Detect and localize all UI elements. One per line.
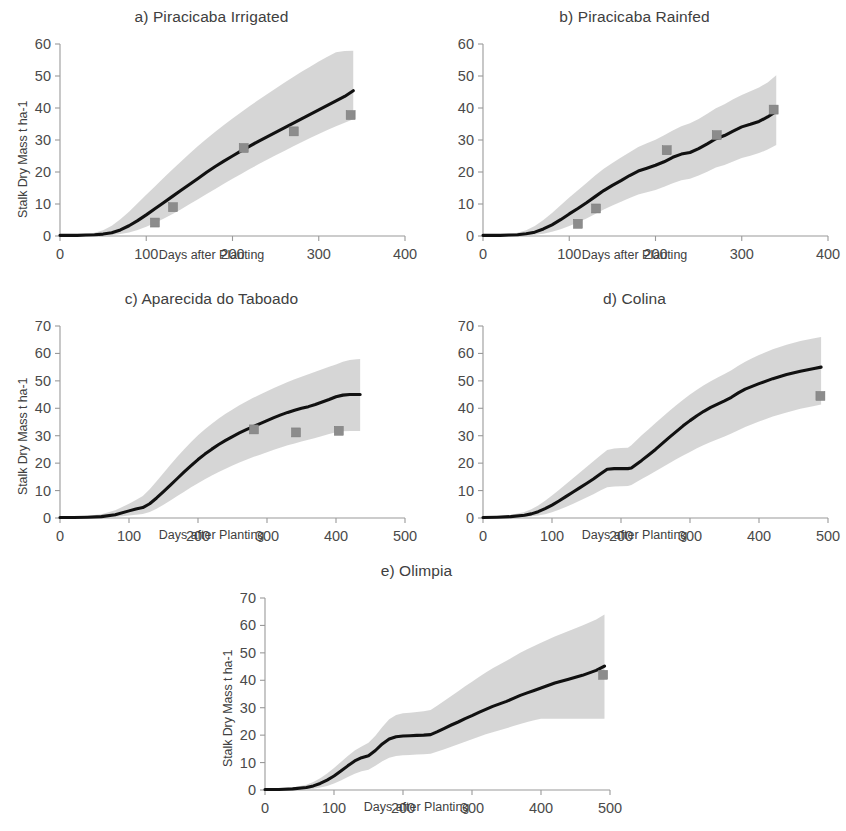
observation-marker [573, 219, 582, 228]
panel-b-title: b) Piracicaba Rainfed [423, 8, 846, 26]
observation-marker [168, 203, 177, 212]
svg-text:30: 30 [458, 132, 474, 148]
svg-text:50: 50 [240, 645, 256, 661]
svg-text:20: 20 [35, 455, 51, 471]
observation-marker [599, 670, 608, 679]
svg-text:40: 40 [35, 100, 51, 116]
observation-marker [712, 131, 721, 140]
panel-e-plot: 0102030405060700100200300400500 [205, 584, 628, 831]
observation-marker [346, 111, 355, 120]
svg-text:40: 40 [240, 672, 256, 688]
panel-a-plot: 01020304050600100200300400 [0, 30, 423, 278]
panel-a: a) Piracicaba Irrigated Stalk Dry Mass t… [0, 8, 423, 283]
panel-e-title: e) Olimpia [205, 562, 628, 580]
panel-c-title: c) Aparecida do Taboado [0, 290, 423, 308]
svg-text:0: 0 [466, 228, 474, 244]
observation-marker [662, 146, 671, 155]
panel-a-x-axis-label: Days after Planting [0, 248, 423, 262]
svg-text:30: 30 [240, 700, 256, 716]
svg-text:50: 50 [458, 68, 474, 84]
svg-text:60: 60 [458, 36, 474, 52]
panel-b-plot: 01020304050600100200300400 [423, 30, 846, 278]
svg-text:40: 40 [35, 400, 51, 416]
observation-marker [769, 105, 778, 114]
panel-c: c) Aparecida do Taboado Stalk Dry Mass t… [0, 290, 423, 565]
panel-d-title: d) Colina [423, 290, 846, 308]
svg-text:10: 10 [458, 196, 474, 212]
panel-d: d) Colina 010203040506070010020030040050… [423, 290, 846, 565]
svg-text:0: 0 [248, 782, 256, 798]
observation-marker [591, 204, 600, 213]
svg-text:60: 60 [35, 345, 51, 361]
svg-text:30: 30 [35, 132, 51, 148]
svg-text:0: 0 [466, 510, 474, 526]
svg-text:10: 10 [35, 196, 51, 212]
observation-marker [249, 425, 258, 434]
panel-d-plot: 0102030405060700100200300400500 [423, 312, 846, 560]
svg-text:70: 70 [458, 318, 474, 334]
svg-text:20: 20 [35, 164, 51, 180]
svg-text:20: 20 [458, 455, 474, 471]
observation-marker [334, 426, 343, 435]
svg-text:60: 60 [35, 36, 51, 52]
panel-b-x-axis-label: Days after Planting [423, 248, 846, 262]
observation-marker [239, 144, 248, 153]
multi-panel-figure: a) Piracicaba Irrigated Stalk Dry Mass t… [0, 0, 846, 831]
svg-text:50: 50 [35, 373, 51, 389]
panel-c-plot: 0102030405060700100200300400500 [0, 312, 423, 560]
svg-text:40: 40 [458, 100, 474, 116]
svg-text:10: 10 [458, 483, 474, 499]
observation-marker [289, 127, 298, 136]
panel-b: b) Piracicaba Rainfed 010203040506001002… [423, 8, 846, 283]
svg-text:70: 70 [35, 318, 51, 334]
svg-text:60: 60 [240, 617, 256, 633]
panel-e-x-axis-label: Days after Planting [205, 800, 628, 814]
svg-text:30: 30 [35, 428, 51, 444]
svg-text:30: 30 [458, 428, 474, 444]
svg-text:0: 0 [43, 510, 51, 526]
svg-text:70: 70 [240, 590, 256, 606]
svg-text:50: 50 [35, 68, 51, 84]
svg-text:0: 0 [43, 228, 51, 244]
observation-marker [291, 428, 300, 437]
svg-text:10: 10 [35, 483, 51, 499]
svg-text:60: 60 [458, 345, 474, 361]
svg-text:40: 40 [458, 400, 474, 416]
panel-e: e) Olimpia Stalk Dry Mass t ha-1 0102030… [205, 562, 628, 831]
svg-text:10: 10 [240, 755, 256, 771]
panel-a-title: a) Piracicaba Irrigated [0, 8, 423, 26]
svg-text:20: 20 [240, 727, 256, 743]
observation-marker [150, 218, 159, 227]
observation-marker [816, 391, 825, 400]
panel-c-x-axis-label: Days after Planting [0, 528, 423, 542]
panel-d-x-axis-label: Days after Planting [423, 528, 846, 542]
svg-text:50: 50 [458, 373, 474, 389]
svg-text:20: 20 [458, 164, 474, 180]
